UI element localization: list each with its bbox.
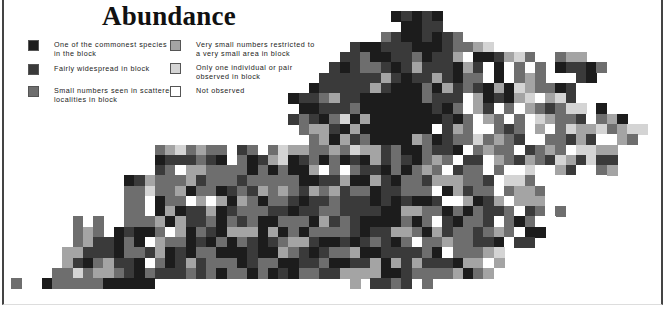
- map-block: [412, 175, 423, 186]
- map-block: [514, 237, 525, 248]
- map-block: [494, 103, 505, 114]
- map-block: [145, 175, 156, 186]
- map-block: [412, 134, 423, 145]
- map-block: [514, 134, 525, 145]
- map-block: [453, 216, 464, 227]
- map-block: [412, 258, 423, 269]
- map-block: [381, 258, 392, 269]
- map-block: [83, 278, 94, 289]
- map-block: [391, 186, 402, 197]
- map-block: [370, 165, 381, 176]
- map-block: [134, 247, 145, 258]
- map-block: [288, 206, 299, 217]
- map-block: [586, 175, 597, 186]
- map-block: [453, 103, 464, 114]
- map-block: [278, 175, 289, 186]
- map-block: [412, 114, 423, 125]
- map-block: [186, 206, 197, 217]
- map-block: [412, 11, 423, 22]
- map-block: [237, 206, 248, 217]
- map-block: [319, 83, 330, 94]
- map-block: [483, 258, 494, 269]
- map-block: [11, 278, 22, 289]
- map-block: [288, 175, 299, 186]
- map-block: [350, 206, 361, 217]
- map-block: [237, 145, 248, 156]
- map-block: [514, 145, 525, 156]
- map-block: [83, 258, 94, 269]
- map-block: [114, 278, 125, 289]
- map-block: [165, 165, 176, 176]
- map-block: [247, 268, 258, 279]
- map-block: [340, 62, 351, 73]
- map-block: [453, 83, 464, 94]
- map-block: [145, 186, 156, 197]
- map-block: [134, 237, 145, 248]
- map-block: [596, 145, 607, 156]
- map-block: [237, 165, 248, 176]
- map-block: [165, 237, 176, 248]
- map-block: [175, 258, 186, 269]
- map-block: [206, 268, 217, 279]
- map-block: [350, 258, 361, 269]
- map-block: [103, 237, 114, 248]
- map-block: [514, 165, 525, 176]
- map-block: [175, 216, 186, 227]
- map-block: [473, 42, 484, 53]
- map-block: [391, 32, 402, 43]
- map-block: [442, 186, 453, 197]
- map-block: [473, 165, 484, 176]
- map-block: [525, 216, 536, 227]
- map-block: [442, 62, 453, 73]
- map-block: [442, 258, 453, 269]
- map-block: [247, 258, 258, 269]
- map-block: [381, 278, 392, 289]
- map-block: [586, 145, 597, 156]
- map-block: [412, 237, 423, 248]
- map-block: [483, 42, 494, 53]
- map-block: [258, 186, 269, 197]
- map-block: [483, 114, 494, 125]
- map-block: [73, 278, 84, 289]
- map-block: [442, 237, 453, 248]
- map-block: [473, 206, 484, 217]
- map-block: [62, 258, 73, 269]
- map-block: [350, 114, 361, 125]
- map-block: [545, 216, 556, 227]
- map-block: [596, 134, 607, 145]
- map-block: [442, 206, 453, 217]
- map-block: [350, 237, 361, 248]
- map-block: [145, 278, 156, 289]
- map-block: [319, 103, 330, 114]
- map-block: [186, 175, 197, 186]
- map-block: [350, 134, 361, 145]
- map-block: [309, 216, 320, 227]
- map-block: [340, 83, 351, 94]
- map-block: [545, 114, 556, 125]
- map-block: [566, 175, 577, 186]
- map-block: [586, 134, 597, 145]
- map-block: [391, 83, 402, 94]
- map-block: [73, 247, 84, 258]
- map-block: [401, 278, 412, 289]
- map-block: [247, 175, 258, 186]
- map-block: [422, 62, 433, 73]
- map-block: [391, 42, 402, 53]
- map-block: [442, 134, 453, 145]
- map-block: [453, 42, 464, 53]
- map-block: [381, 165, 392, 176]
- map-block: [206, 175, 217, 186]
- map-block: [381, 247, 392, 258]
- map-block: [525, 206, 536, 217]
- map-block: [237, 258, 248, 269]
- map-block: [473, 268, 484, 279]
- map-block: [412, 186, 423, 197]
- map-block: [412, 103, 423, 114]
- map-block: [206, 216, 217, 227]
- map-block: [545, 186, 556, 197]
- map-block: [453, 247, 464, 258]
- map-block: [607, 165, 618, 176]
- map-block: [442, 83, 453, 94]
- map-block: [473, 114, 484, 125]
- map-block: [494, 134, 505, 145]
